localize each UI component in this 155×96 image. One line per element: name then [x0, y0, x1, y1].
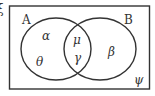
venn-diagram: ξ A B α θ μ γ β ψ	[0, 0, 155, 96]
set-a-label: A	[21, 13, 31, 27]
region-a-theta: θ	[36, 55, 44, 69]
universal-set-symbol: ξ	[0, 2, 4, 16]
region-b-beta: β	[107, 45, 115, 59]
region-a-alpha: α	[42, 29, 50, 43]
set-b-circle	[64, 18, 136, 80]
region-outside-psi: ψ	[134, 73, 144, 87]
region-intersection-gamma: γ	[74, 51, 82, 65]
region-intersection-mu: μ	[73, 33, 81, 47]
set-a-circle	[21, 18, 91, 80]
set-b-label: B	[124, 13, 133, 27]
